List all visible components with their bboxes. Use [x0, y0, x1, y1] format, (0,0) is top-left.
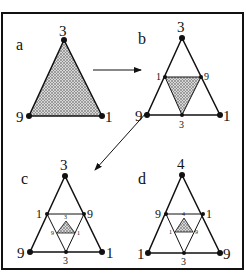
outer-border	[2, 13, 243, 269]
vertex-label: 9	[16, 109, 24, 125]
vertex-label: 9	[87, 207, 93, 221]
vertex-label: 9	[195, 229, 198, 235]
vertex-label: 3	[177, 19, 185, 35]
vertex-label: 4	[182, 211, 185, 217]
panel-d: d 4 1 9 9 1 3 4 1 9	[137, 156, 231, 267]
vertex-label: 1	[137, 246, 145, 262]
vertex-label: 1	[223, 108, 231, 124]
vertex-label: 3	[60, 157, 68, 173]
panel-c: c 3 9 1 1 9 3 3 9 1	[17, 157, 114, 266]
vertex-label: 3	[179, 119, 184, 130]
vertex-label: 3	[181, 256, 186, 267]
panel-label-c: c	[21, 170, 28, 187]
vertex-label: 1	[77, 230, 80, 236]
figure-frame: a 3 9 1 b 3 9 1 1 9 3 c 3 9 1 1 9 3 3 9 …	[1, 12, 244, 270]
vertex-label: 1	[106, 245, 114, 261]
vertex-label: 3	[64, 214, 67, 220]
vertex-label: 1	[206, 207, 212, 221]
vertex-label: 9	[51, 230, 54, 236]
panel-label-b: b	[138, 30, 146, 47]
vertex-label: 1	[169, 229, 172, 235]
vertex-label: 9	[155, 207, 161, 221]
vertex-label: 1	[156, 71, 161, 82]
vertex-label: 9	[17, 245, 25, 261]
panel-label-d: d	[138, 170, 146, 187]
vertex-label: 4	[177, 156, 185, 172]
vertex-label: 9	[135, 108, 143, 124]
panel-label-a: a	[16, 36, 23, 53]
vertex-label: 1	[36, 207, 42, 221]
panel-a: a 3 9 1	[16, 23, 113, 125]
vertex-label: 9	[223, 246, 231, 262]
vertex-label: 3	[59, 23, 67, 39]
panel-b: b 3 9 1 1 9 3	[135, 19, 231, 130]
vertex-label: 3	[63, 255, 68, 266]
vertex-label: 9	[204, 71, 209, 82]
vertex-label: 1	[105, 109, 113, 125]
